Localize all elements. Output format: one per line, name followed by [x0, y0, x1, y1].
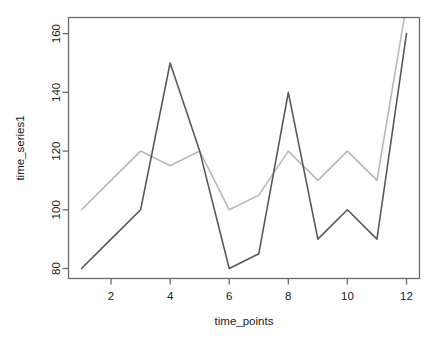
- chart-background: [0, 0, 437, 346]
- x-tick-label: 6: [226, 290, 232, 302]
- x-axis-title: time_points: [215, 315, 274, 327]
- x-tick-label: 2: [108, 290, 114, 302]
- chart-container: 24681012 80100120140160 time_points time…: [0, 0, 437, 346]
- line-chart: 24681012 80100120140160 time_points time…: [0, 0, 437, 346]
- x-tick-label: 12: [400, 290, 413, 302]
- y-tick-label: 80: [50, 262, 62, 275]
- y-tick-label: 160: [50, 24, 62, 43]
- x-tick-label: 10: [341, 290, 354, 302]
- y-axis-title: time_series1: [14, 115, 26, 180]
- y-tick-label: 120: [50, 141, 62, 160]
- x-tick-label: 8: [285, 290, 291, 302]
- y-tick-label: 100: [50, 200, 62, 219]
- y-tick-label: 140: [50, 83, 62, 102]
- x-tick-label: 4: [167, 290, 174, 302]
